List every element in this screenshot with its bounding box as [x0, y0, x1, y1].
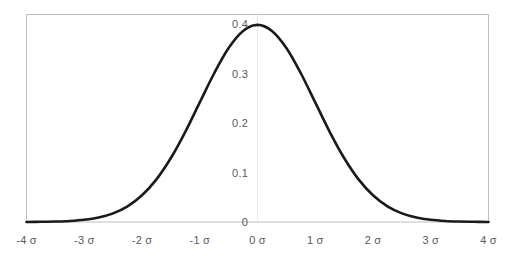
y-tick-label-1: 0.1 — [206, 166, 248, 179]
x-tick-label-7: 3 σ — [422, 234, 439, 247]
x-tick-label-5: 1 σ — [307, 234, 324, 247]
x-tick-label-6: 2 σ — [365, 234, 382, 247]
y-tick-label-3: 0.3 — [206, 67, 248, 80]
x-tick-label-2: -2 σ — [132, 234, 152, 247]
plot-area — [0, 0, 517, 257]
x-tick-label-4: 0 σ — [249, 234, 266, 247]
y-tick-label-4: 0.4 — [206, 18, 248, 31]
x-tick-label-3: -1 σ — [190, 234, 210, 247]
y-tick-label-2: 0.2 — [206, 117, 248, 130]
x-tick-label-1: -3 σ — [74, 234, 94, 247]
y-tick-label-0: 0 — [206, 216, 248, 229]
x-tick-label-8: 4 σ — [480, 234, 497, 247]
normal-distribution-chart: -4 σ-3 σ-2 σ-1 σ0 σ1 σ2 σ3 σ4 σ 00.10.20… — [0, 0, 517, 257]
x-tick-label-0: -4 σ — [16, 234, 36, 247]
